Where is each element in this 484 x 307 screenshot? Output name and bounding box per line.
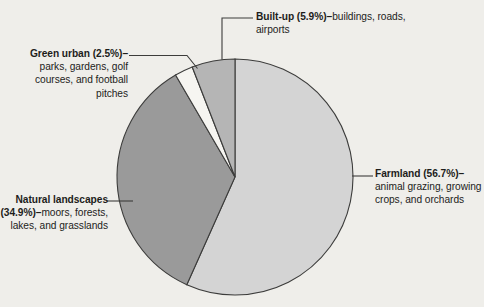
leader-line-built-up bbox=[222, 18, 253, 60]
pie-chart-figure: Built-up (5.9%)–buildings, roads, airpor… bbox=[0, 0, 484, 307]
callout-built-up: Built-up (5.9%)–buildings, roads, airpor… bbox=[256, 10, 416, 36]
callout-farmland-head: Farmland (56.7%)– bbox=[375, 168, 464, 179]
leader-line-green-urban bbox=[129, 56, 198, 69]
callout-farmland: Farmland (56.7%)–animal grazing, growing… bbox=[375, 167, 483, 207]
callout-farmland-body: animal grazing, growing crops, and orcha… bbox=[375, 181, 481, 205]
pie-slices bbox=[117, 59, 353, 295]
callout-green-urban-body: parks, gardens, golf courses, and footba… bbox=[35, 61, 128, 98]
callout-built-up-head: Built-up (5.9%)– bbox=[256, 11, 332, 22]
callout-natural-landscapes: Natural landscapes (34.9%)–moors, forest… bbox=[0, 193, 108, 233]
callout-green-urban-head: Green urban (2.5%)– bbox=[30, 48, 128, 59]
callout-green-urban: Green urban (2.5%)–parks, gardens, golf … bbox=[8, 47, 128, 100]
